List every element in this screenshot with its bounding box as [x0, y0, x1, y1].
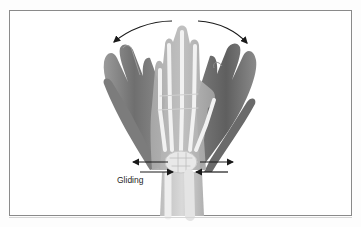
curved-arrow-right — [198, 21, 247, 43]
frame-shadow — [9, 217, 352, 218]
hand-wrist-illustration — [0, 0, 361, 227]
gliding-label: Gliding — [117, 175, 143, 185]
curved-arrow-left — [114, 21, 172, 42]
